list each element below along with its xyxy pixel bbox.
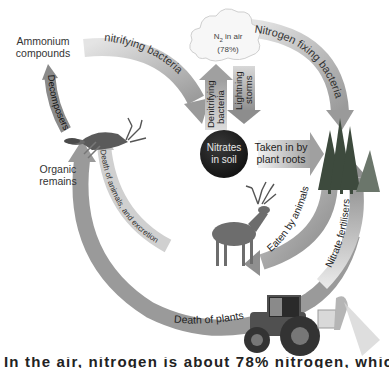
trees-illustration	[318, 118, 380, 194]
nitrogen-cycle-diagram: nitrifying bacteria Nitrogen fixing bact…	[0, 0, 389, 368]
label-n2-in-air: N2 in air (78%)	[200, 32, 256, 55]
arrow-nitrifying-bacteria	[84, 47, 210, 124]
label-nitrates-in-soil: Nitrates in soil	[200, 142, 248, 166]
label-ammonium-compounds: Ammonium compounds	[8, 35, 78, 59]
label-organic-remains: Organic remains	[28, 163, 88, 187]
svg-text:storms: storms	[243, 75, 254, 104]
label-taken-in-by-plant-roots: Taken in by plant roots	[246, 141, 316, 165]
soil-mound-illustration	[64, 138, 80, 144]
label-lightning-storms: Lightning storms	[233, 71, 254, 110]
svg-text:bacteria: bacteria	[215, 89, 226, 124]
cut-off-caption: In the air, nitrogen is about 78% nitrog…	[0, 357, 389, 368]
